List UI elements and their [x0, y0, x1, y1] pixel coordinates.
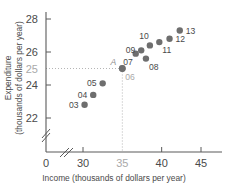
- x-axis-tick-label: 45: [195, 157, 207, 169]
- data-point-label: 05: [87, 78, 97, 88]
- y-axis-title-line2: (thousands of dollars per year): [14, 21, 24, 135]
- data-point-label: 12: [176, 34, 186, 44]
- plot-canvas: 2224252628030354045030405060708091011121…: [0, 0, 229, 196]
- data-point-label: 07: [123, 57, 133, 67]
- y-axis-tick-label: 22: [26, 112, 38, 124]
- data-point-marker[interactable]: [90, 92, 96, 98]
- data-point-marker[interactable]: [99, 80, 105, 86]
- x-axis-tick-label: 40: [156, 157, 168, 169]
- x-axis-tick-label: 30: [77, 157, 89, 169]
- y-axis-tick-label: 24: [26, 79, 38, 91]
- y-axis-title-line1: Expenditure: [3, 55, 13, 100]
- data-point-marker[interactable]: [138, 47, 144, 53]
- data-point-label: 11: [162, 45, 171, 55]
- highlight-point-label: A: [110, 57, 117, 67]
- data-point-label: 03: [69, 100, 79, 110]
- highlight-point-marker[interactable]: [119, 65, 126, 72]
- x-axis-title: Income (thousands of dollars per year): [42, 173, 186, 183]
- data-point-label: 10: [139, 31, 149, 41]
- data-point-label: 13: [186, 26, 196, 36]
- data-point-label: 08: [149, 62, 159, 72]
- data-point-marker[interactable]: [166, 36, 172, 42]
- x-axis-tick-label: 35: [116, 157, 128, 169]
- data-point-marker[interactable]: [81, 102, 87, 108]
- y-axis-tick-label: 26: [26, 46, 38, 58]
- scatter-chart: 2224252628030354045030405060708091011121…: [0, 0, 229, 196]
- data-point-label: 06: [125, 72, 135, 82]
- data-point-marker[interactable]: [147, 42, 153, 48]
- y-axis-tick-label: 28: [26, 13, 38, 25]
- data-point-label: 04: [78, 90, 88, 100]
- y-axis-tick-label: 25: [26, 63, 38, 75]
- data-point-marker[interactable]: [177, 27, 183, 33]
- data-point-label: 09: [126, 45, 136, 55]
- x-axis-tick-label: 0: [43, 157, 49, 169]
